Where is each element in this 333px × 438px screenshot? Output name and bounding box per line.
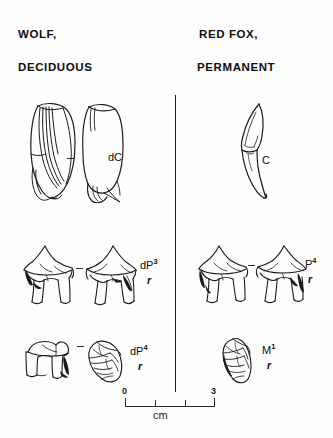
wolf-dp3-view-left [20, 242, 78, 306]
wolf-deciduous-canine-view-buccal [75, 98, 135, 203]
label-wolf-dc: dC [108, 152, 122, 164]
header-right-taxon: RED FOX, [199, 28, 258, 40]
label-wolf-dp4-sublabel: r [138, 360, 142, 372]
scale-label-end: 3 [211, 386, 216, 396]
label-redfox-c: C [262, 155, 270, 167]
scale-tick-1 [155, 400, 156, 407]
red-fox-m1-view-occlusal [219, 336, 259, 386]
label-redfox-m1-sublabel: r [267, 359, 271, 371]
label-redfox-p4-sublabel: r [308, 273, 312, 285]
scale-bar-axis [125, 406, 215, 407]
red-fox-p4-view-left [196, 242, 251, 306]
panel-divider-line [175, 95, 176, 392]
red-fox-permanent-canine-view [232, 98, 280, 203]
row2-right-view-separator-dash [248, 265, 255, 266]
wolf-dp4-view-buccal [22, 338, 78, 384]
header-left-taxon: WOLF, [18, 28, 57, 40]
label-redfox-m1: M1 [262, 343, 275, 356]
header-left-dentition: DECIDUOUS [18, 61, 92, 73]
label-wolf-dp3: dP3 [140, 258, 158, 271]
label-wolf-dp3-superscript: 3 [153, 257, 157, 266]
header-right-dentition: PERMANENT [197, 61, 275, 73]
label-wolf-dp4-base: dP [130, 345, 143, 357]
row2-left-view-separator-dash [76, 268, 83, 269]
scale-tick-0 [125, 398, 126, 407]
label-redfox-p4: P4 [305, 257, 317, 270]
label-wolf-dp3-base: dP [140, 259, 153, 271]
label-redfox-p4-superscript: 4 [312, 256, 316, 265]
label-wolf-dp4: dP4 [130, 344, 148, 357]
scale-tick-3 [214, 398, 215, 407]
wolf-dp4-view-occlusal [85, 337, 127, 385]
wolf-dp3-view-right [83, 242, 141, 306]
label-redfox-c-text: C [262, 154, 270, 166]
row3-left-view-separator-dash [77, 346, 84, 347]
label-wolf-dc-text: dC [108, 151, 122, 163]
row1-view-separator-dash [67, 158, 74, 159]
scale-tick-2 [185, 400, 186, 407]
label-wolf-dp4-superscript: 4 [143, 343, 147, 352]
scale-unit-label: cm [153, 409, 168, 421]
scale-bar: 0 3 cm [120, 392, 220, 432]
red-fox-p4-view-right [254, 242, 309, 306]
label-wolf-dp3-sublabel: r [147, 274, 151, 286]
figure-plate: WOLF, DECIDUOUS RED FOX, PERMANENT [0, 0, 333, 438]
label-redfox-m1-base: M [262, 344, 271, 356]
scale-label-start: 0 [122, 386, 127, 396]
label-redfox-m1-superscript: 1 [271, 342, 275, 351]
